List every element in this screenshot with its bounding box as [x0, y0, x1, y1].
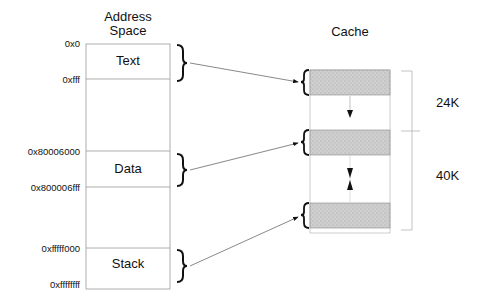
address-stack-start: 0xfffff000 [0, 243, 80, 254]
cache-size-24k: 24K [436, 95, 459, 110]
size-bracket [401, 71, 420, 230]
address-space-title: Address Space [88, 10, 168, 38]
segment-label-stack: Stack [86, 256, 170, 271]
cache-size-40k: 40K [436, 168, 459, 183]
title-line-2: Space [88, 24, 168, 38]
cache-brace-icons [301, 70, 309, 228]
title-line-1: Address [88, 10, 168, 24]
address-stack-end: 0xffffffff [0, 279, 80, 290]
segment-label-data: Data [86, 161, 170, 176]
address-data-end: 0x800006fff [0, 182, 80, 193]
address-text-start: 0x0 [0, 38, 80, 49]
cache-title: Cache [320, 25, 380, 39]
segment-brace-icons [177, 45, 187, 282]
mapping-arrows [190, 63, 298, 266]
segment-label-text: Text [86, 53, 170, 68]
cache-column [310, 70, 390, 233]
address-data-start: 0x80006000 [0, 146, 80, 157]
address-text-end: 0xfff [0, 74, 80, 85]
